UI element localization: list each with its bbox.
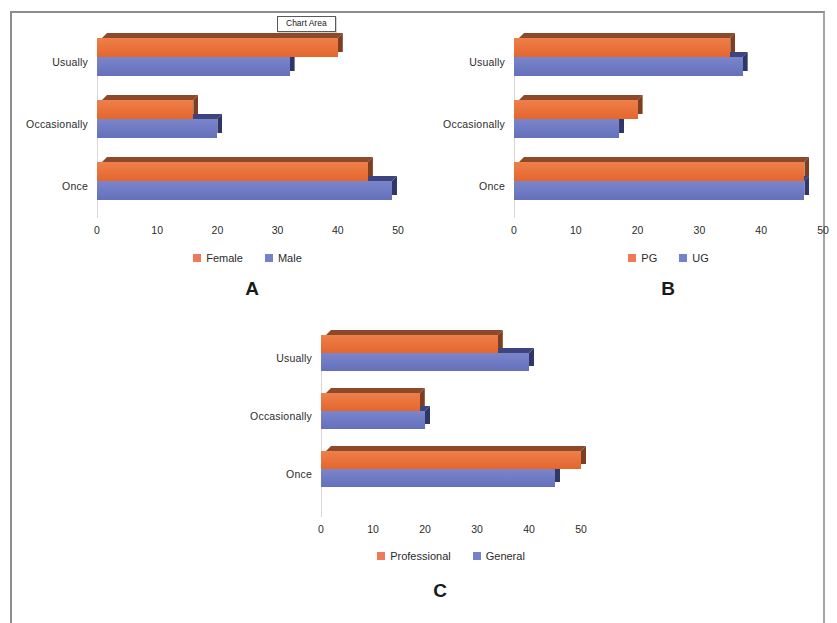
bar-c-general-occasionally[interactable] xyxy=(321,411,425,429)
chart-area-tooltip: Chart Area xyxy=(277,16,336,32)
legend-label: Male xyxy=(278,252,302,264)
bar-c-professional-once[interactable] xyxy=(321,451,581,469)
bar-front-face xyxy=(321,393,420,411)
bar-a-female-occasionally[interactable] xyxy=(97,100,193,119)
bar-c-general-usually[interactable] xyxy=(321,353,529,371)
bar-front-face xyxy=(97,119,217,138)
bar-b-pg-usually[interactable] xyxy=(514,38,730,57)
bar-a-male-usually[interactable] xyxy=(97,57,290,76)
bar-front-face xyxy=(97,162,368,181)
legend-label: General xyxy=(486,550,525,562)
legend-c[interactable]: ProfessionalGeneral xyxy=(321,550,581,562)
bar-c-professional-usually[interactable] xyxy=(321,335,498,353)
legend-b[interactable]: PGUG xyxy=(514,252,823,264)
bar-b-ug-usually[interactable] xyxy=(514,57,743,76)
bar-b-ug-once[interactable] xyxy=(514,181,804,200)
bar-front-face xyxy=(514,119,619,138)
legend-label: PG xyxy=(641,252,657,264)
legend-item-ug[interactable]: UG xyxy=(679,252,709,264)
bar-front-face xyxy=(321,353,529,371)
legend-item-pg[interactable]: PG xyxy=(628,252,657,264)
legend-swatch-ug-icon xyxy=(679,254,687,262)
bar-b-ug-occasionally[interactable] xyxy=(514,119,619,138)
bar-c-general-once[interactable] xyxy=(321,469,555,487)
bar-front-face xyxy=(97,57,290,76)
legend-swatch-pg-icon xyxy=(628,254,636,262)
bar-c-professional-occasionally[interactable] xyxy=(321,393,420,411)
bar-a-male-occasionally[interactable] xyxy=(97,119,217,138)
legend-label: UG xyxy=(692,252,709,264)
bar-b-pg-once[interactable] xyxy=(514,162,804,181)
legend-swatch-female-icon xyxy=(193,254,201,262)
legend-swatch-general-icon xyxy=(473,552,481,560)
bar-a-male-once[interactable] xyxy=(97,181,392,200)
bar-front-face xyxy=(321,451,581,469)
bar-a-female-usually[interactable] xyxy=(97,38,338,57)
bar-front-face xyxy=(321,335,498,353)
bar-front-face xyxy=(514,57,743,76)
bar-front-face xyxy=(97,181,392,200)
legend-swatch-male-icon xyxy=(265,254,273,262)
bar-front-face xyxy=(514,38,730,57)
bar-front-face xyxy=(514,162,804,181)
bar-b-pg-occasionally[interactable] xyxy=(514,100,638,119)
legend-item-general[interactable]: General xyxy=(473,550,525,562)
bar-front-face xyxy=(97,38,338,57)
bar-front-face xyxy=(321,411,425,429)
chart-area-tooltip-label: Chart Area xyxy=(286,18,327,28)
legend-item-male[interactable]: Male xyxy=(265,252,302,264)
bar-front-face xyxy=(321,469,555,487)
bar-front-face xyxy=(514,100,638,119)
legend-label: Female xyxy=(206,252,243,264)
legend-a[interactable]: FemaleMale xyxy=(97,252,398,264)
bar-front-face xyxy=(514,181,804,200)
legend-swatch-professional-icon xyxy=(377,552,385,560)
legend-item-professional[interactable]: Professional xyxy=(377,550,451,562)
legend-label: Professional xyxy=(390,550,451,562)
legend-item-female[interactable]: Female xyxy=(193,252,243,264)
bar-a-female-once[interactable] xyxy=(97,162,368,181)
bar-front-face xyxy=(97,100,193,119)
